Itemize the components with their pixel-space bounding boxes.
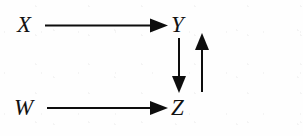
edge-z-to-y-arrowhead — [195, 33, 209, 50]
edge-y-to-z-arrowhead — [172, 76, 186, 93]
node-label-z: Z — [171, 96, 184, 119]
diagram-edges — [0, 0, 303, 136]
edge-x-to-y — [45, 19, 168, 33]
edge-y-to-z — [172, 38, 186, 93]
edge-w-to-z-arrowhead — [150, 101, 168, 115]
edge-x-to-y-arrowhead — [150, 19, 168, 33]
diagram-canvas: X Y W Z — [0, 0, 303, 136]
node-label-x: X — [17, 13, 31, 36]
edge-w-to-z — [47, 101, 168, 115]
node-label-y: Y — [171, 13, 184, 36]
edge-z-to-y — [195, 33, 209, 92]
node-label-w: W — [14, 96, 33, 119]
